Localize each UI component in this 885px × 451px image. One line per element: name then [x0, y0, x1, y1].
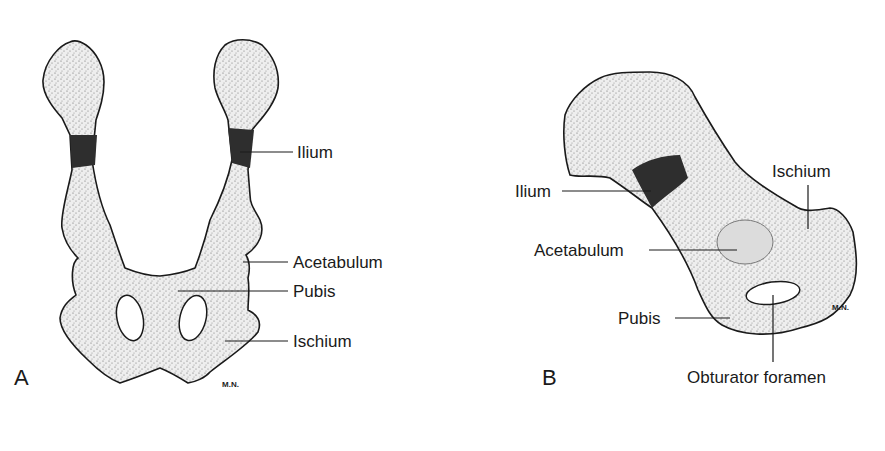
label-ilium-a: Ilium	[297, 144, 333, 161]
panel-a-pelvis	[43, 40, 293, 383]
label-obturator-foramen-b: Obturator foramen	[687, 369, 826, 386]
panel-b-hip-bone	[562, 72, 856, 362]
label-acetabulum-a: Acetabulum	[293, 254, 383, 271]
hip-bone-b-outline	[564, 72, 857, 334]
label-ilium-b: Ilium	[515, 183, 551, 200]
acetabulum-b	[717, 220, 773, 264]
panel-label-a: A	[14, 367, 29, 389]
label-acetabulum-b: Acetabulum	[534, 242, 624, 259]
signature-a: M.N.	[222, 381, 239, 389]
label-ischium-b: Ischium	[772, 163, 831, 180]
label-ischium-a: Ischium	[293, 333, 352, 350]
pelvis-a-outline	[43, 40, 278, 383]
label-pubis-a: Pubis	[293, 283, 336, 300]
growth-plate-right	[228, 128, 254, 168]
signature-b: M.N.	[832, 304, 849, 312]
label-pubis-b: Pubis	[618, 310, 661, 327]
panel-label-b: B	[542, 367, 557, 389]
growth-plate-left	[70, 135, 97, 168]
